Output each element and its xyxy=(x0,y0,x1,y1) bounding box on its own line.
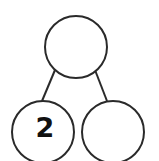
number-bond-diagram: 2 xyxy=(0,0,159,161)
part-right-circle[interactable] xyxy=(82,101,144,161)
left-connector-line xyxy=(42,70,55,101)
part-left-value: 2 xyxy=(36,112,55,143)
whole-circle[interactable] xyxy=(45,16,107,78)
right-connector-line xyxy=(95,70,107,101)
